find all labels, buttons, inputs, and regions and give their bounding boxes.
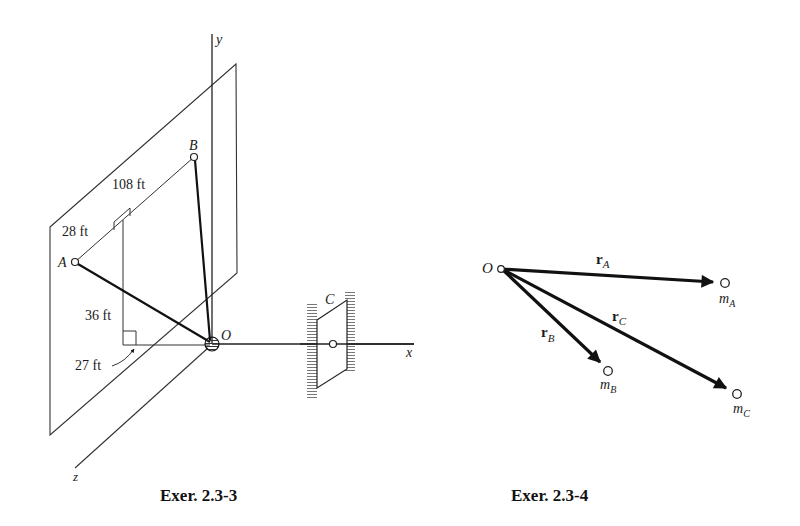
vector-rb [502, 269, 600, 362]
support-c [300, 290, 414, 398]
caption-exer-2-3-3: Exer. 2.3-3 [160, 486, 237, 505]
label-point-c: C [325, 292, 335, 307]
label-mb: mB [600, 377, 616, 395]
point-a [72, 259, 79, 266]
caption-exer-2-3-4: Exer. 2.3-4 [511, 486, 589, 505]
point-b [191, 154, 198, 161]
cable-oa [78, 264, 210, 342]
origin-point [498, 266, 505, 273]
vertical-plane [50, 64, 237, 435]
label-origin: O [482, 260, 493, 276]
mass-c-point [733, 390, 742, 399]
line-a-b [75, 157, 194, 262]
mass-a-point [721, 279, 730, 288]
vector-ra [502, 269, 713, 282]
label-point-a: A [57, 255, 67, 270]
right-angle-mark-top [114, 208, 130, 230]
label-ma: mA [719, 291, 736, 309]
label-point-b: B [189, 138, 198, 153]
label-z-axis: z [72, 469, 78, 484]
label-y-axis: y [214, 32, 223, 47]
label-rb: rB [541, 324, 555, 344]
label-27ft: 27 ft [75, 358, 101, 373]
figure-exer-2-3-4: O rA rB rC mA mB mC Exer. 2.3-4 [482, 251, 750, 505]
diagram-canvas: y x z A B C O 108 ft 28 ft 36 ft 27 ft E… [0, 0, 800, 526]
point-o-ball [205, 337, 219, 351]
right-angle-mark-bottom [123, 331, 136, 345]
label-108ft: 108 ft [112, 177, 145, 192]
label-point-o: O [221, 328, 231, 343]
mass-b-point [604, 367, 613, 376]
label-x-axis: x [405, 345, 413, 360]
label-mc: mC [733, 401, 750, 419]
cable-ob [195, 160, 210, 340]
dimension-arrow-27ft [112, 349, 134, 366]
figure-exer-2-3-3: y x z A B C O 108 ft 28 ft 36 ft 27 ft E… [50, 32, 414, 505]
label-rc: rC [612, 308, 627, 327]
vector-rc [502, 269, 726, 388]
label-ra: rA [596, 251, 610, 270]
label-36ft: 36 ft [85, 308, 111, 323]
label-28ft: 28 ft [62, 224, 88, 239]
